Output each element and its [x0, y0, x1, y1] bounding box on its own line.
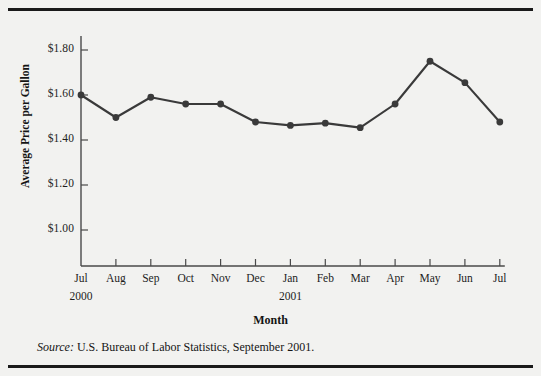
y-axis-tick-label: $1.20	[26, 177, 74, 189]
data-point-marker	[462, 79, 469, 86]
data-point-marker	[182, 101, 189, 108]
source-note: Source: U.S. Bureau of Labor Statistics,…	[37, 340, 314, 355]
data-point-marker	[427, 58, 434, 65]
data-point-marker	[322, 120, 329, 127]
y-axis-tick-label: $1.40	[26, 132, 74, 144]
y-axis-tick-label: $1.80	[26, 42, 74, 54]
price-series-group	[78, 58, 504, 131]
y-axis-title: Average Price per Gallon	[19, 46, 31, 206]
price-line	[81, 61, 500, 127]
source-text: U.S. Bureau of Labor Statistics, Septemb…	[74, 340, 314, 354]
data-point-marker	[113, 114, 120, 121]
x-axis-year-label: 2001	[265, 290, 315, 302]
data-point-marker	[392, 101, 399, 108]
figure-panel: $1.80$1.60$1.40$1.20$1.00 JulAugSepOctNo…	[0, 0, 541, 376]
source-label: Source:	[37, 340, 74, 354]
chart-plot-area: $1.80$1.60$1.40$1.20$1.00 JulAugSepOctNo…	[0, 0, 541, 376]
axis-ticks-group	[81, 50, 500, 266]
data-point-marker	[496, 119, 503, 126]
x-axis-year-label: 2000	[56, 290, 106, 302]
data-point-marker	[287, 122, 294, 129]
data-point-marker	[147, 94, 154, 101]
axes-group	[81, 36, 505, 266]
y-axis-tick-label: $1.00	[26, 222, 74, 234]
data-point-marker	[217, 101, 224, 108]
data-point-marker	[357, 124, 364, 131]
y-axis-tick-label: $1.60	[26, 87, 74, 99]
x-axis-tick-label: Jul	[475, 272, 525, 284]
data-point-marker	[78, 92, 85, 99]
x-axis-title: Month	[0, 313, 541, 328]
data-point-marker	[252, 119, 259, 126]
